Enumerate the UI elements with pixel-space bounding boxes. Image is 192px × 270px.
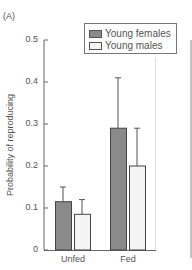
- y-tick-label: 0.5: [18, 34, 38, 44]
- legend-item-young-males: Young males: [89, 40, 162, 51]
- y-tick-label: 0.2: [18, 160, 38, 170]
- y-tick-label: 0.1: [18, 202, 38, 212]
- y-axis-label: Probability of reproducing: [5, 85, 15, 205]
- category-label-fed: Fed: [108, 254, 148, 264]
- legend: Young females Young males: [84, 23, 177, 54]
- legend-swatch-females: [89, 30, 102, 38]
- y-tick-label: 0: [18, 244, 38, 254]
- category-label-unfed: Unfed: [53, 254, 93, 264]
- y-tick-label: 0.4: [18, 76, 38, 86]
- y-tick-label: 0.3: [18, 118, 38, 128]
- legend-item-young-females: Young females: [89, 28, 171, 39]
- bar-fed-females: [111, 128, 127, 250]
- bar-unfed-females: [56, 202, 72, 250]
- legend-swatch-males: [89, 42, 102, 50]
- bar-unfed-males: [75, 214, 91, 250]
- legend-label-females: Young females: [105, 28, 171, 39]
- bar-fed-males: [130, 166, 146, 250]
- legend-label-males: Young males: [105, 40, 162, 51]
